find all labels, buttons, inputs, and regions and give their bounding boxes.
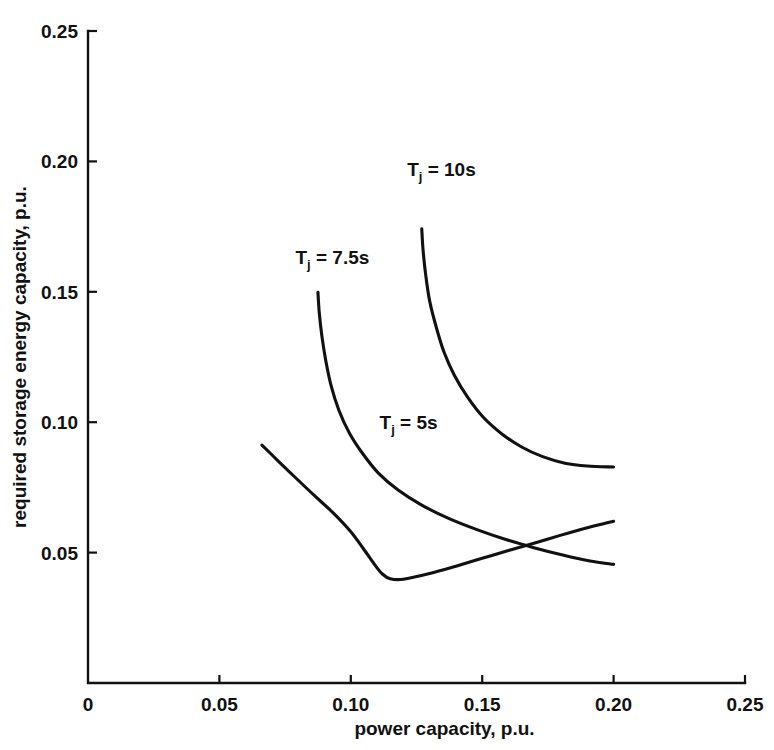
data-curve: [318, 292, 614, 564]
axis-lines: [88, 31, 745, 683]
y-tick-label: 0.20: [41, 151, 78, 172]
x-axis-title: power capacity, p.u.: [354, 718, 534, 739]
x-tick-label: 0: [83, 694, 94, 715]
x-tick-label: 0.05: [201, 694, 238, 715]
series-annotations-group: Tj = 5sTj = 7.5sTj = 10s: [295, 159, 475, 437]
chart-plot-area: 00.050.100.150.200.250.050.100.150.200.2…: [0, 0, 774, 750]
y-tick-label: 0.15: [41, 282, 78, 303]
data-curves-group: [262, 229, 614, 580]
x-tick-label: 0.20: [595, 694, 632, 715]
axes-group: [88, 31, 745, 683]
x-tick-label: 0.25: [727, 694, 764, 715]
x-tick-label: 0.15: [464, 694, 501, 715]
chart-figure: 00.050.100.150.200.250.050.100.150.200.2…: [0, 0, 774, 750]
series-annotation-label: Tj = 5s: [380, 412, 438, 437]
y-tick-label: 0.10: [41, 412, 78, 433]
y-tick-label: 0.25: [41, 21, 78, 42]
ticks-group: [88, 31, 745, 683]
series-annotation-label: Tj = 7.5s: [295, 247, 369, 272]
data-curve: [422, 229, 614, 467]
x-tick-label: 0.10: [332, 694, 369, 715]
tick-labels-group: 00.050.100.150.200.250.050.100.150.200.2…: [41, 21, 764, 715]
y-tick-label: 0.05: [41, 543, 78, 564]
y-axis-title: required storage energy capacity, p.u.: [9, 186, 30, 528]
series-annotation-label: Tj = 10s: [407, 159, 476, 184]
